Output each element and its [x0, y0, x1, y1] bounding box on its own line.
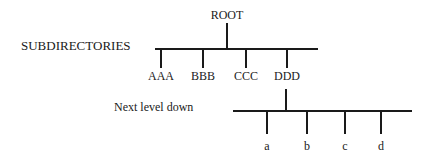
- node-ddd: DDD: [274, 70, 300, 82]
- subdirectories-caption: SUBDIRECTORIES: [21, 40, 131, 52]
- branch-c: [344, 111, 346, 134]
- node-d: d: [378, 140, 384, 152]
- node-a: a: [264, 140, 269, 152]
- root-connector: [226, 23, 228, 49]
- branch-ccc: [245, 49, 247, 68]
- branch-b: [306, 111, 308, 134]
- branch-bbb: [202, 49, 204, 68]
- level2-bar: [233, 110, 412, 112]
- branch-aaa: [160, 49, 162, 68]
- root-label: ROOT: [211, 9, 244, 21]
- node-aaa: AAA: [148, 70, 174, 82]
- branch-a: [266, 111, 268, 134]
- ddd-connector: [285, 89, 287, 111]
- node-b: b: [304, 140, 310, 152]
- branch-d: [380, 111, 382, 134]
- node-c: c: [342, 140, 347, 152]
- node-bbb: BBB: [191, 70, 215, 82]
- branch-ddd: [286, 49, 288, 68]
- next-level-caption: Next level down: [114, 101, 193, 113]
- node-ccc: CCC: [234, 70, 258, 82]
- level1-bar: [155, 48, 318, 50]
